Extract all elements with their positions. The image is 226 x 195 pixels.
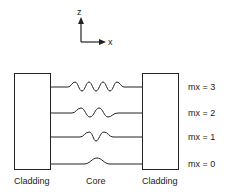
x-axis-label: x: [108, 38, 113, 47]
mode-line-mx3: [51, 82, 142, 91]
core-label: Core: [86, 177, 106, 186]
x-arrow-icon: [99, 39, 106, 45]
right-cladding-box: [143, 74, 179, 170]
left-cladding-box: [15, 74, 51, 170]
z-axis-label: z: [77, 8, 82, 17]
mode-label-mx2: mx = 2: [188, 109, 215, 118]
mode-label-mx3: mx = 3: [188, 83, 215, 92]
mode-label-mx0: mx = 0: [188, 160, 215, 169]
axis-indicator: [78, 17, 106, 45]
z-arrow-icon: [78, 17, 84, 24]
mode-line-mx2: [51, 108, 142, 117]
mode-line-mx1: [51, 132, 142, 141]
right-cladding-label: Cladding: [142, 177, 178, 186]
mode-label-mx1: mx = 1: [188, 133, 215, 142]
left-cladding-label: Cladding: [14, 177, 50, 186]
mode-line-mx0: [51, 158, 142, 164]
mode-lines: [51, 82, 142, 164]
